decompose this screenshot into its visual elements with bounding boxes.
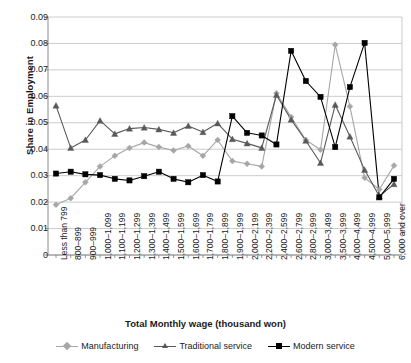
x-axis-tick: 4,500–4,999 — [368, 213, 377, 260]
chart-legend: ManufacturingTraditional serviceModern s… — [0, 341, 411, 351]
y-axis-tick: 0.02 — [12, 198, 48, 207]
x-axis-tick: 1,000–1,099 — [104, 213, 113, 260]
legend-marker-icon — [154, 341, 176, 351]
x-axis-tick: 2,600–2,799 — [295, 213, 304, 260]
legend-marker-icon — [56, 341, 78, 351]
legend-item: Modern service — [268, 341, 355, 351]
x-axis-tick: 2,200–2,399 — [265, 213, 274, 260]
legend-item: Manufacturing — [56, 341, 138, 351]
x-axis-tick: 800–899 — [74, 227, 83, 260]
x-axis-tick: 1,400–1,499 — [162, 213, 171, 260]
y-axis-tick: 0.07 — [12, 65, 48, 74]
y-axis-tick: 0 — [12, 251, 48, 260]
x-axis-tick: 1,800–1,899 — [221, 213, 230, 260]
x-axis-tick: 2,400–2,599 — [280, 213, 289, 260]
x-axis-tick: 1,200–1,299 — [133, 213, 142, 260]
legend-label: Traditional service — [179, 341, 252, 351]
y-axis-tick: 0.03 — [12, 171, 48, 180]
x-axis-tick: 1,900–1,999 — [236, 213, 245, 260]
x-axis-tick: 2,000–2,199 — [251, 213, 260, 260]
legend-label: Modern service — [293, 341, 355, 351]
y-axis-tick: 0.08 — [12, 39, 48, 48]
legend-label: Manufacturing — [81, 341, 138, 351]
x-axis-tick: 5,000–5,999 — [383, 213, 392, 260]
x-axis-tick: 6,000 and over — [398, 203, 407, 260]
y-axis-tick: 0.09 — [12, 13, 48, 22]
x-axis-tick: 900–999 — [89, 227, 98, 260]
y-axis-tick: 0.04 — [12, 145, 48, 154]
y-axis-tick: 0.05 — [12, 118, 48, 127]
x-axis-tick: 4,000–4,499 — [353, 213, 362, 260]
y-axis-tick: 0.01 — [12, 224, 48, 233]
x-axis-tick: 1,100–1,199 — [118, 213, 127, 260]
x-axis-tick: 2,800–2,999 — [309, 213, 318, 260]
x-axis-tick: Less than 799 — [60, 207, 69, 260]
plot-area — [0, 0, 411, 363]
y-axis-tick-labels: 00.010.020.030.040.050.060.070.080.09 — [8, 0, 48, 363]
x-axis-title: Total Monthly wage (thousand won) — [0, 318, 411, 329]
legend-marker-icon — [268, 341, 290, 351]
x-axis-tick: 1,700–1,799 — [206, 213, 215, 260]
x-axis-tick: 3,500–3,999 — [339, 213, 348, 260]
x-axis-tick: 1,600–1,699 — [192, 213, 201, 260]
line-chart: Share in Employment 00.010.020.030.040.0… — [0, 0, 411, 363]
x-axis-tick: 1,500–1,599 — [177, 213, 186, 260]
x-axis-tick: 1,300–1,399 — [148, 213, 157, 260]
y-axis-tick: 0.06 — [12, 92, 48, 101]
legend-item: Traditional service — [154, 341, 252, 351]
x-axis-tick: 3,000–3,499 — [324, 213, 333, 260]
